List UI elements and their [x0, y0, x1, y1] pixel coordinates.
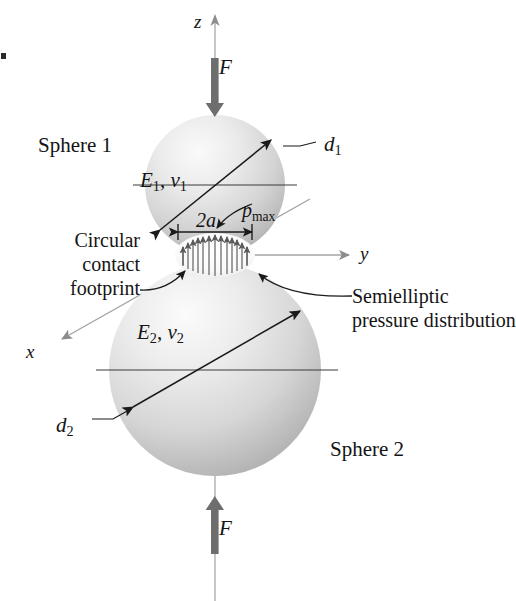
pmax-subscript: max	[252, 209, 275, 224]
pressure-caption-line-2: pressure distribution	[352, 308, 512, 332]
pressure-distribution-caption: Semielliptic pressure distribution	[352, 284, 512, 332]
sphere-2-modulus-subscript: 2	[150, 330, 157, 346]
d1-subscript: 1	[335, 142, 342, 158]
sphere-2-diameter-label: d2	[56, 413, 74, 440]
sphere-1-label: Sphere 1	[38, 133, 112, 158]
sphere-1-material-separator: ,	[160, 168, 171, 192]
sphere-2-material-label: E2, v2	[137, 320, 184, 347]
footprint-caption-line-1: Circular	[15, 228, 140, 252]
x-axis-label: x	[26, 341, 34, 363]
footprint-caption-line-3: footprint	[15, 276, 140, 300]
sphere-1-diameter-label: d1	[324, 132, 342, 159]
sphere-1-material-label: E1, v1	[140, 168, 187, 195]
contact-footprint-caption: Circular contact footprint	[15, 228, 140, 300]
page-edge-mark	[1, 53, 6, 59]
sphere-2-poisson-symbol: v	[167, 320, 176, 344]
pressure-caption-line-1: Semielliptic	[352, 284, 512, 308]
sphere-2-modulus-symbol: E	[137, 320, 150, 344]
sphere-2-material-separator: ,	[157, 320, 168, 344]
z-axis-label: z	[194, 11, 201, 33]
sphere-1-poisson-symbol: v	[170, 168, 179, 192]
force-bottom-label: F	[219, 516, 232, 541]
sphere-1-modulus-subscript: 1	[153, 178, 160, 194]
d1-symbol: d	[324, 132, 335, 156]
sphere-2-label: Sphere 2	[330, 437, 404, 462]
sphere-2-poisson-subscript: 2	[177, 330, 184, 346]
contact-width-label: 2a	[196, 209, 216, 232]
y-axis-label: y	[360, 243, 368, 265]
force-top-label: F	[219, 55, 232, 80]
pmax-symbol: p	[242, 199, 252, 221]
sphere-1-poisson-subscript: 1	[180, 178, 187, 194]
d1-leader-line	[283, 142, 316, 146]
pressure-distribution-arrows	[183, 235, 247, 276]
footprint-caption-line-2: contact	[15, 252, 140, 276]
d2-subscript: 2	[67, 423, 74, 439]
d2-symbol: d	[56, 413, 67, 437]
pmax-label: pmax	[242, 199, 275, 225]
sphere-1-modulus-symbol: E	[140, 168, 153, 192]
